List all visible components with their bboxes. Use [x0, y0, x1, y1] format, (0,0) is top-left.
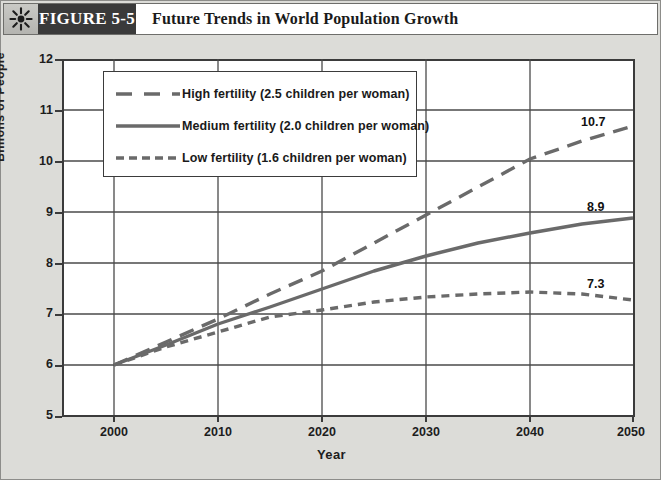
chart-area: Billions of People 12 11 10 9 8 7 6 5	[1, 37, 661, 480]
page-title: Future Trends in World Population Growth	[152, 10, 458, 28]
x-tick-mark	[217, 415, 219, 422]
figure-header: FIGURE 5-5 Future Trends in World Popula…	[3, 3, 658, 35]
x-tick-label: 2040	[516, 425, 544, 439]
x-tick-mark	[113, 415, 115, 422]
x-axis-title: Year	[1, 447, 661, 462]
end-label-high: 10.7	[581, 115, 605, 129]
x-tick-label: 2000	[100, 425, 128, 439]
figure-container: FIGURE 5-5 Future Trends in World Popula…	[0, 0, 661, 480]
x-tick-mark	[425, 415, 427, 422]
x-tick-mark	[529, 415, 531, 422]
sun-icon-box	[4, 4, 38, 34]
legend-box: High fertility (2.5 children per woman) …	[103, 71, 417, 177]
legend-swatch-long-dash	[114, 87, 182, 101]
legend-label-high: High fertility (2.5 children per woman)	[182, 87, 410, 101]
legend-item-low: Low fertility (1.6 children per woman)	[104, 142, 416, 174]
legend-swatch-solid	[114, 119, 182, 133]
end-label-medium: 8.9	[587, 200, 604, 214]
legend-label-medium: Medium fertility (2.0 children per woman…	[182, 119, 429, 133]
x-tick-label: 2010	[204, 425, 232, 439]
legend-label-low: Low fertility (1.6 children per woman)	[182, 151, 407, 165]
legend-swatch-short-dash	[114, 151, 182, 165]
x-tick-label: 2050	[617, 425, 645, 439]
figure-number-badge: FIGURE 5-5	[38, 4, 136, 34]
sun-icon	[9, 7, 33, 31]
series-line-low	[114, 292, 633, 365]
figure-number-text: FIGURE 5-5	[39, 9, 135, 29]
legend-item-high: High fertility (2.5 children per woman)	[104, 78, 416, 110]
x-tick-label: 2030	[412, 425, 440, 439]
end-label-low: 7.3	[587, 277, 604, 291]
x-tick-mark	[321, 415, 323, 422]
figure-title-box: Future Trends in World Population Growth	[136, 4, 657, 34]
x-tick-mark	[632, 415, 634, 422]
x-tick-label: 2020	[308, 425, 336, 439]
legend-item-medium: Medium fertility (2.0 children per woman…	[104, 110, 416, 142]
